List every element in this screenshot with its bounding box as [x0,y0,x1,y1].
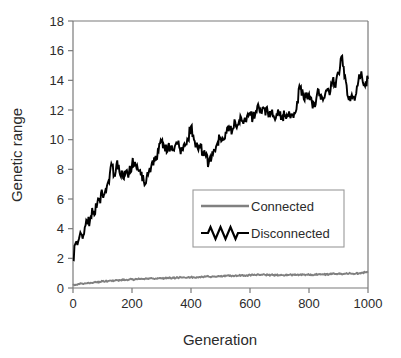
y-tick-label: 2 [57,251,64,266]
x-tick-label: 800 [298,296,320,311]
y-tick-label: 14 [50,73,64,88]
y-tick-label: 18 [50,14,64,29]
axes-group: 02468101214161802004006008001000 [50,14,383,312]
x-tick-label: 600 [239,296,261,311]
series-group [73,56,368,285]
y-tick-label: 0 [57,281,64,296]
legend-label: Connected [251,199,314,214]
y-axis-title: Genetic range [8,108,25,202]
x-tick-label: 400 [180,296,202,311]
series-line-connected [73,271,368,285]
y-tick-label: 6 [57,192,64,207]
chart-figure: 02468101214161802004006008001000 Connect… [0,0,401,358]
x-tick-label: 200 [121,296,143,311]
y-tick-label: 16 [50,43,64,58]
chart-legend: ConnectedDisconnected [193,190,344,247]
y-tick-label: 8 [57,162,64,177]
x-axis-title: Generation [183,331,257,348]
y-tick-label: 12 [50,103,64,118]
y-tick-label: 10 [50,132,64,147]
y-tick-label: 4 [57,221,64,236]
x-tick-label: 0 [69,296,76,311]
chart-plot-area: 02468101214161802004006008001000 Connect… [0,0,401,358]
x-tick-label: 1000 [354,296,383,311]
legend-label: Disconnected [251,226,330,241]
